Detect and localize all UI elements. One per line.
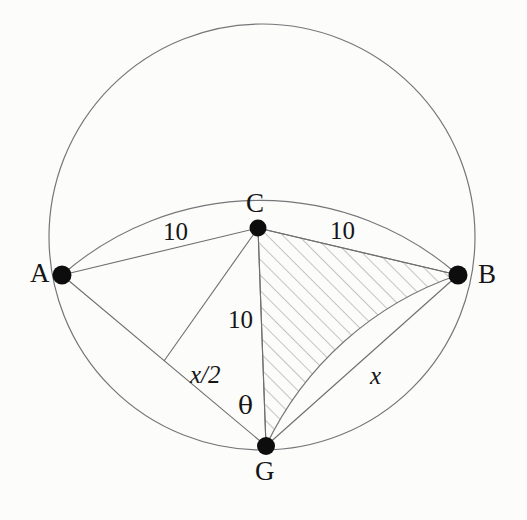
length-label-CG: 10 [228,307,253,332]
length-label-AC: 10 [163,219,188,244]
segment-A-C [62,228,258,275]
vertex-B [449,266,468,285]
vertex-C [250,220,267,237]
point-label-C: C [246,190,264,217]
length-label-CB: 10 [330,218,355,243]
point-label-G: G [255,458,275,485]
angle-label-theta: θ [238,393,253,418]
geometry-canvas [0,0,527,520]
point-label-A: A [30,260,50,287]
segment-C-midpoint-AG [164,228,258,361]
geometry-figure: A B C G 10 10 10 x/2 x θ [0,0,527,520]
hatched-region [258,228,458,446]
vertex-A [53,266,72,285]
length-label-x: x [370,363,381,388]
point-label-B: B [478,261,496,288]
vertex-G [257,437,275,455]
length-label-half-x: x/2 [190,362,221,387]
